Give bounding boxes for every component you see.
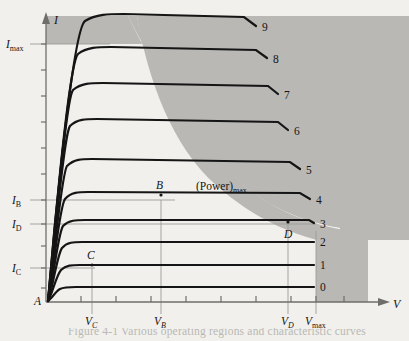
figure-caption-strip: Figure 4-1 Various operating regions and… <box>0 328 409 341</box>
point-d-label: D <box>283 228 293 240</box>
point-c-label: C <box>87 249 95 261</box>
curve-label-6: 6 <box>294 125 300 137</box>
curve-label-4: 4 <box>316 194 322 206</box>
point-b-label: B <box>156 179 163 191</box>
figure-caption: Figure 4-1 Various operating regions and… <box>68 328 366 337</box>
curve-label-0: 0 <box>320 281 326 293</box>
curve-label-8: 8 <box>273 53 279 65</box>
characteristic-curves-chart: 0 1 2 3 4 5 6 7 8 9 B C D I V A Imax IB … <box>0 0 409 341</box>
curve-label-9: 9 <box>262 21 268 33</box>
point-c-dot <box>90 263 93 266</box>
figure-container: 0 1 2 3 4 5 6 7 8 9 B C D I V A Imax IB … <box>0 0 409 341</box>
curve-label-7: 7 <box>284 89 290 101</box>
origin-label: A <box>33 295 42 307</box>
curve-label-1: 1 <box>320 259 326 271</box>
curve-label-2: 2 <box>320 236 326 248</box>
point-d-dot <box>286 220 289 223</box>
point-b-dot <box>159 193 162 196</box>
curve-label-5: 5 <box>306 164 312 176</box>
curve-label-3: 3 <box>320 218 326 230</box>
